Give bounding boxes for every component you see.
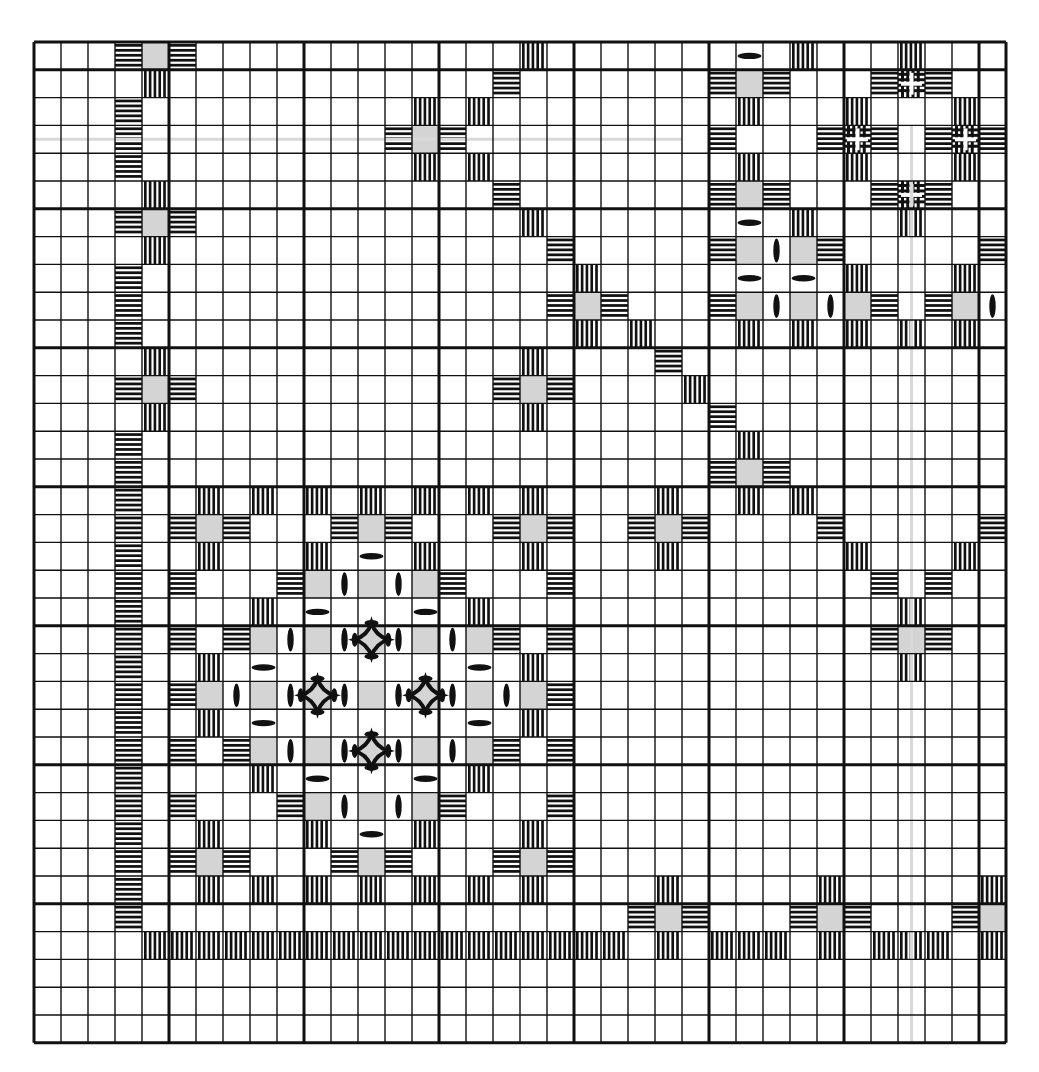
woven-bar-horizontal-icon [738, 275, 762, 281]
woven-bar-vertical-icon [395, 795, 401, 819]
woven-bar-vertical-icon [341, 739, 347, 763]
woven-bar-horizontal-icon [738, 53, 762, 59]
woven-bar-vertical-icon [449, 628, 455, 652]
cut-square-icon [412, 570, 439, 598]
cut-square-icon [466, 737, 493, 765]
woven-bar-horizontal-icon [468, 720, 492, 726]
cut-square-icon [196, 848, 223, 876]
woven-bar-vertical-icon [287, 739, 293, 763]
cut-square-icon [736, 70, 763, 98]
cut-square-icon [358, 570, 385, 598]
cut-square-icon [520, 515, 547, 543]
cut-square-icon [466, 681, 493, 709]
cut-square-icon [412, 626, 439, 654]
cut-square-icon [196, 515, 223, 543]
cut-square-icon [196, 681, 223, 709]
cut-square-icon [655, 515, 682, 543]
woven-bar-horizontal-icon [306, 609, 330, 615]
cut-square-icon [142, 209, 169, 237]
cut-square-icon [142, 42, 169, 70]
cut-square-icon [142, 376, 169, 404]
cut-square-icon [520, 848, 547, 876]
cut-square-icon [304, 570, 331, 598]
cut-square-icon [304, 737, 331, 765]
cut-square-icon [520, 681, 547, 709]
cut-square-icon [466, 626, 493, 654]
woven-bar-horizontal-icon [792, 275, 816, 281]
cut-square-icon [358, 793, 385, 821]
woven-bar-horizontal-icon [252, 720, 276, 726]
cut-square-icon [412, 793, 439, 821]
cut-square-icon [358, 681, 385, 709]
cut-square-icon [736, 459, 763, 487]
woven-bar-horizontal-icon [414, 609, 438, 615]
cut-square-icon [790, 237, 817, 265]
cut-square-icon [358, 515, 385, 543]
woven-bar-vertical-icon [395, 739, 401, 763]
cut-square-icon [655, 904, 682, 932]
cut-square-icon [790, 292, 817, 320]
woven-bar-horizontal-icon [252, 664, 276, 670]
cut-square-icon [952, 292, 979, 320]
cut-square-icon [304, 626, 331, 654]
woven-bar-horizontal-icon [360, 831, 384, 837]
woven-bar-vertical-icon [449, 683, 455, 707]
woven-bar-horizontal-icon [360, 553, 384, 559]
cut-square-icon [250, 737, 277, 765]
cut-square-icon [358, 848, 385, 876]
cut-square-icon [250, 681, 277, 709]
woven-bar-horizontal-icon [414, 776, 438, 782]
embroidery-chart [0, 0, 1039, 1072]
woven-bar-vertical-icon [773, 294, 779, 318]
cut-square-icon [979, 904, 1006, 932]
woven-bar-vertical-icon [233, 683, 239, 707]
woven-bar-vertical-icon [395, 572, 401, 596]
cut-square-icon [520, 376, 547, 404]
woven-bar-vertical-icon [287, 628, 293, 652]
woven-bar-vertical-icon [395, 683, 401, 707]
cut-square-icon [412, 737, 439, 765]
woven-bar-vertical-icon [503, 683, 509, 707]
cut-square-icon [736, 292, 763, 320]
woven-bar-vertical-icon [341, 683, 347, 707]
woven-bar-vertical-icon [341, 795, 347, 819]
woven-bar-horizontal-icon [738, 220, 762, 226]
woven-bar-horizontal-icon [468, 664, 492, 670]
cut-square-icon [817, 904, 844, 932]
woven-bar-vertical-icon [341, 572, 347, 596]
woven-bar-vertical-icon [449, 739, 455, 763]
cut-square-icon [736, 237, 763, 265]
cut-square-icon [304, 793, 331, 821]
woven-bar-vertical-icon [341, 628, 347, 652]
woven-bar-horizontal-icon [306, 776, 330, 782]
woven-bar-vertical-icon [287, 683, 293, 707]
cut-square-icon [736, 181, 763, 209]
cut-square-icon [844, 292, 871, 320]
woven-bar-vertical-icon [827, 294, 833, 318]
cut-square-icon [574, 292, 601, 320]
woven-bar-vertical-icon [773, 239, 779, 263]
woven-bar-vertical-icon [395, 628, 401, 652]
cut-square-icon [250, 626, 277, 654]
woven-bar-vertical-icon [989, 294, 995, 318]
